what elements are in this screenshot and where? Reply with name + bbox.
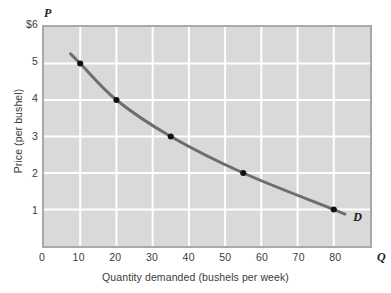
plot-area — [42, 25, 372, 248]
y-axis-title: Price (per bushel) — [12, 61, 24, 201]
x-tick-label: 50 — [210, 251, 240, 263]
demand-curve-series — [44, 27, 370, 246]
x-tick-label: 0 — [27, 251, 57, 263]
demand-curve-label: D — [353, 210, 362, 225]
y-axis-symbol: P — [44, 6, 51, 21]
x-tick-label: 40 — [174, 251, 204, 263]
figure-caption — [6, 0, 386, 8]
x-tick-label: 70 — [284, 251, 314, 263]
y-tick-label: $6 — [4, 18, 38, 30]
x-axis-tick-labels: 01020304050607080 — [0, 251, 391, 267]
x-tick-label: 80 — [320, 251, 350, 263]
demand-curve-figure: P Q 12345$6 Price (per bushel) D 0102030… — [0, 0, 391, 293]
x-tick-label: 60 — [247, 251, 277, 263]
x-tick-label: 10 — [64, 251, 94, 263]
y-tick-label: 1 — [4, 204, 38, 216]
x-axis-title: Quantity demanded (bushels per week) — [0, 271, 391, 283]
plot-inner — [44, 27, 370, 246]
x-tick-label: 20 — [100, 251, 130, 263]
x-tick-label: 30 — [137, 251, 167, 263]
